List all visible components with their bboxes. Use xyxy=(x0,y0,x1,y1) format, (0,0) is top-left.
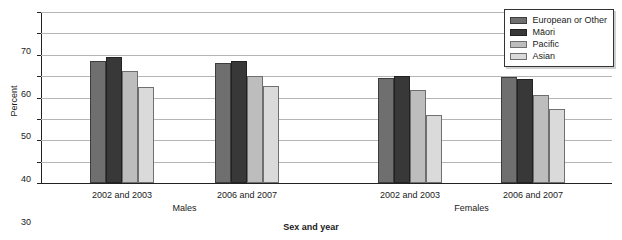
bar xyxy=(90,61,106,183)
legend-swatch-icon xyxy=(510,41,527,48)
y-axis-tick: 60 xyxy=(37,55,41,56)
y-axis-tick: 70 xyxy=(37,33,41,34)
legend-label: European or Other xyxy=(532,15,607,25)
bar xyxy=(549,109,565,183)
y-axis-tick-label: 40 xyxy=(21,179,31,180)
bar xyxy=(122,71,138,183)
bar xyxy=(378,78,394,183)
legend-swatch-icon xyxy=(510,53,527,60)
legend-item: Pacific xyxy=(510,38,607,50)
bar-group xyxy=(215,12,279,183)
bar xyxy=(533,95,549,183)
legend-item: Māori xyxy=(510,26,607,38)
bar xyxy=(517,79,533,183)
bar xyxy=(231,61,247,183)
y-axis-tick: 30 xyxy=(37,119,41,120)
bar-chart: Percent 010203040506070 2002 and 2003200… xyxy=(0,0,622,240)
legend-label: Pacific xyxy=(532,39,559,49)
y-axis-tick xyxy=(37,12,41,13)
legend-label: Māori xyxy=(532,27,555,37)
x-axis-group-label: Females xyxy=(422,203,522,213)
legend-label: Asian xyxy=(532,51,555,61)
bar-group xyxy=(90,12,154,183)
x-axis-tick-label: 2002 and 2003 xyxy=(350,190,470,200)
y-axis-tick: 50 xyxy=(37,76,41,77)
legend: European or OtherMāoriPacificAsian xyxy=(504,9,614,67)
bar xyxy=(394,76,410,183)
x-axis-tick-label: 2006 and 2007 xyxy=(187,190,307,200)
bar xyxy=(501,77,517,183)
x-axis-tick-label: 2002 and 2003 xyxy=(62,190,182,200)
x-axis-group-label: Males xyxy=(135,203,235,213)
y-axis-tick-label: 60 xyxy=(21,94,31,95)
x-axis-tick-label: 2006 and 2007 xyxy=(473,190,593,200)
y-axis-tick: 20 xyxy=(37,140,41,141)
bar xyxy=(247,76,263,183)
legend-item: Asian xyxy=(510,50,607,62)
bar xyxy=(106,57,122,183)
x-axis-title: Sex and year xyxy=(0,222,622,232)
y-axis-tick: 0 xyxy=(37,183,41,184)
y-axis-tick-label: 50 xyxy=(21,136,31,137)
y-axis-tick: 10 xyxy=(37,162,41,163)
y-axis-title: Percent xyxy=(9,61,19,141)
legend-swatch-icon xyxy=(510,17,527,24)
bar-group xyxy=(378,12,442,183)
y-axis-tick: 40 xyxy=(37,98,41,99)
y-axis-tick-label: 70 xyxy=(21,51,31,52)
legend-swatch-icon xyxy=(510,29,527,36)
bar xyxy=(263,86,279,183)
bar xyxy=(410,90,426,183)
bar xyxy=(215,63,231,183)
legend-item: European or Other xyxy=(510,14,607,26)
x-axis-line xyxy=(41,183,612,184)
bar xyxy=(138,87,154,183)
bar xyxy=(426,115,442,183)
